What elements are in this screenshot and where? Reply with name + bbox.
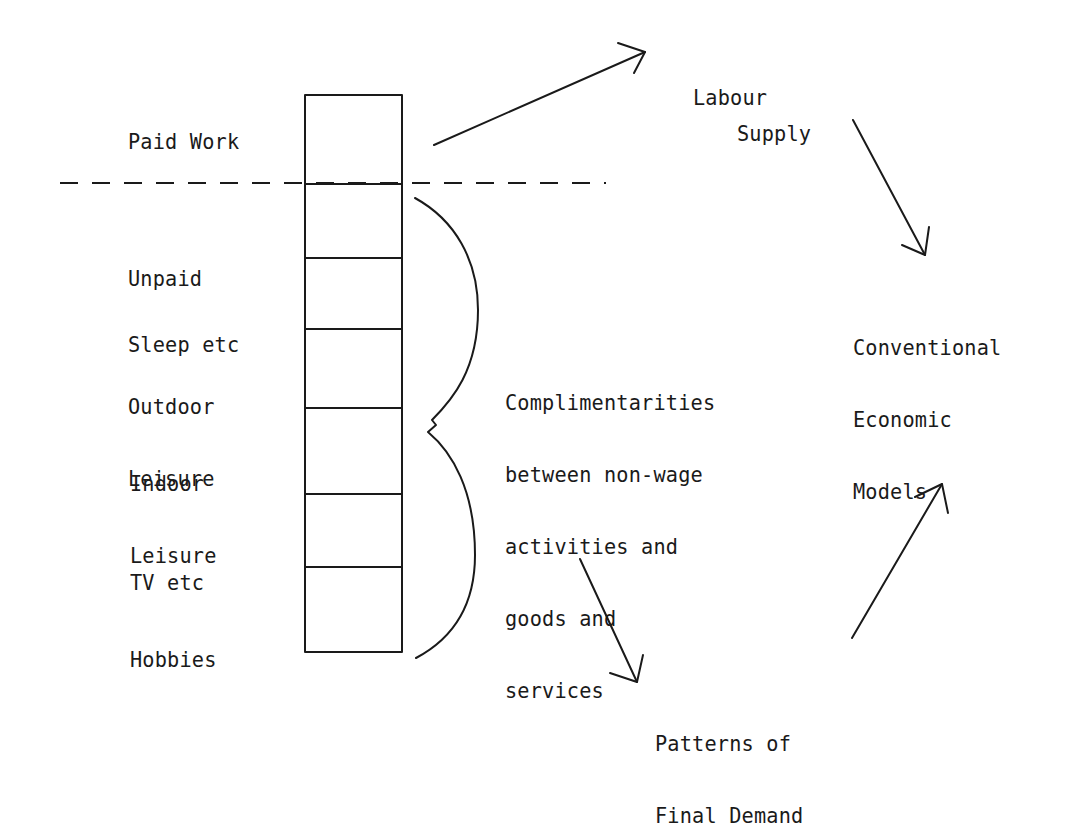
label-line: between non-wage [505, 463, 715, 487]
label-line: TV etc [130, 571, 204, 595]
arrow-labour-to-models-icon [853, 120, 929, 255]
label-line: Outdoor [128, 395, 215, 419]
label-line: Patterns of [655, 732, 803, 756]
label-line: goods and [505, 607, 715, 631]
label-line: Models [853, 480, 1001, 504]
column-outline [305, 95, 402, 652]
label-line: activities and [505, 535, 715, 559]
label-line: Hobbies [130, 648, 217, 672]
label-line: Final Demand [655, 804, 803, 827]
label-hobbies: Hobbies [130, 600, 217, 720]
curly-brace [415, 198, 478, 658]
label-line: Supply [737, 122, 811, 146]
label-line: Conventional [853, 336, 1001, 360]
label-line: Economic [853, 408, 1001, 432]
label-line: Complimentarities [505, 391, 715, 415]
label-line: Indoor [130, 472, 217, 496]
arrow-paid-to-labour-icon [434, 43, 645, 145]
node-final-demand: Patterns of Final Demand [655, 684, 803, 827]
label-paid-work: Paid Work [128, 130, 239, 154]
time-budget-column [305, 95, 402, 652]
node-conventional-economic-models: Conventional Economic Models [853, 288, 1001, 552]
node-supply: Supply [737, 74, 811, 194]
